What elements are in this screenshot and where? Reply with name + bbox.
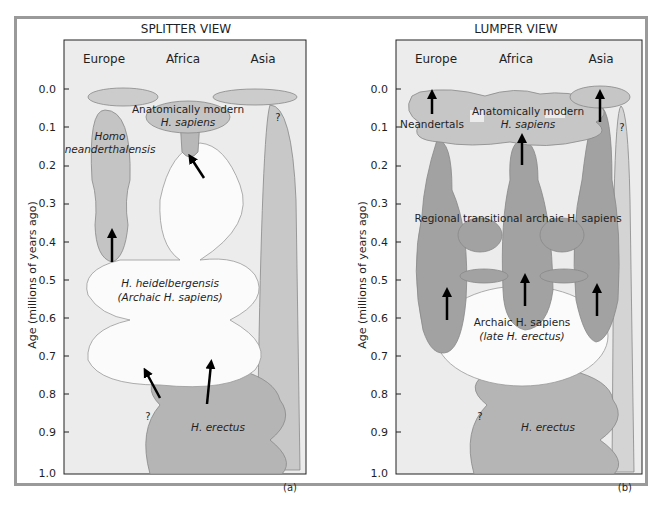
- svg-text:0.0: 0.0: [39, 83, 57, 96]
- svg-text:0.9: 0.9: [39, 426, 57, 439]
- question-mark-b2: ?: [619, 122, 624, 133]
- label-modern-2-a: H. sapiens: [161, 116, 216, 128]
- svg-text:0.2: 0.2: [39, 159, 57, 172]
- svg-text:0.2: 0.2: [371, 159, 389, 172]
- label-erectus-b: H. erectus: [521, 421, 575, 433]
- region-africa-b: Africa: [499, 52, 533, 66]
- question-mark-b1: ?: [477, 411, 482, 422]
- label-archaic-2-b: (late H. erectus): [479, 330, 564, 342]
- question-mark-a2: ?: [275, 112, 280, 123]
- label-regional-b: Regional transitional archaic H. sapiens: [414, 212, 621, 224]
- svg-text:0.7: 0.7: [39, 350, 57, 363]
- y-axis-b: 0.0 0.1 0.2 0.3 0.4 0.5 0.6 0.7 0.8 0.9 …: [356, 83, 401, 480]
- svg-text:0.4: 0.4: [39, 236, 57, 249]
- y-axis-a: 0.0 0.1 0.2 0.3 0.4 0.5 0.6 0.7 0.8 0.9 …: [26, 83, 69, 480]
- region-europe-a: Europe: [83, 52, 125, 66]
- svg-text:0.5: 0.5: [39, 274, 57, 287]
- panel-label-b: (b): [618, 482, 632, 493]
- label-modern-1-b: Anatomically modern: [472, 105, 584, 117]
- svg-text:0.8: 0.8: [39, 388, 57, 401]
- region-asia-a: Asia: [250, 52, 275, 66]
- svg-text:0.6: 0.6: [39, 312, 57, 325]
- label-modern-1-a: Anatomically modern: [132, 103, 244, 115]
- panel-label-a: (a): [283, 482, 297, 493]
- panel-lumper: LUMPER VIEW Europe Africa Asia Neanderta…: [356, 22, 642, 493]
- svg-text:0.0: 0.0: [371, 83, 389, 96]
- svg-text:0.9: 0.9: [371, 426, 389, 439]
- svg-text:0.8: 0.8: [371, 388, 389, 401]
- label-modern-2-b: H. sapiens: [501, 118, 556, 130]
- svg-text:0.7: 0.7: [371, 350, 389, 363]
- region-europe-b: Europe: [415, 52, 457, 66]
- svg-text:1.0: 1.0: [371, 467, 389, 480]
- label-neander-2-a: neanderthalensis: [65, 143, 156, 155]
- svg-text:0.4: 0.4: [371, 236, 389, 249]
- svg-text:0.1: 0.1: [39, 121, 57, 134]
- y-axis-label-a: Age (millions of years ago): [26, 201, 39, 349]
- label-archaic-1-b: Archaic H. sapiens: [474, 316, 571, 328]
- panel-title-a: SPLITTER VIEW: [141, 22, 232, 36]
- svg-text:0.6: 0.6: [371, 312, 389, 325]
- region-asia-b: Asia: [588, 52, 613, 66]
- label-heidel-2-a: (Archaic H. sapiens): [117, 291, 222, 303]
- svg-text:0.1: 0.1: [371, 121, 389, 134]
- region-africa-a: Africa: [166, 52, 200, 66]
- hominin-evolution-diagram: SPLITTER VIEW Europe Africa Asia Anatomi…: [0, 0, 658, 511]
- question-mark-a1: ?: [145, 411, 150, 422]
- svg-text:0.5: 0.5: [371, 274, 389, 287]
- label-neander-1-a: Homo: [95, 130, 126, 142]
- svg-text:0.3: 0.3: [371, 197, 389, 210]
- svg-text:1.0: 1.0: [39, 467, 57, 480]
- label-erectus-a: H. erectus: [191, 421, 245, 433]
- panel-title-b: LUMPER VIEW: [474, 22, 558, 36]
- label-neandertals-b: Neandertals: [400, 118, 464, 130]
- svg-text:0.3: 0.3: [39, 197, 57, 210]
- y-axis-label-b: Age (millions of years ago): [356, 201, 369, 349]
- label-heidel-1-a: H. heidelbergensis: [121, 277, 219, 289]
- panel-splitter: SPLITTER VIEW Europe Africa Asia Anatomi…: [26, 22, 306, 493]
